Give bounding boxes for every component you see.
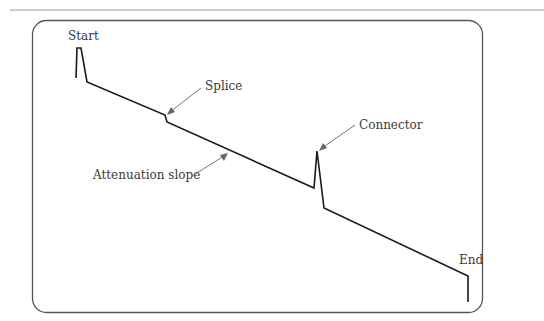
attenuation-label: Attenuation slope — [92, 168, 200, 182]
attenuation-arrow-icon — [192, 153, 228, 176]
otdr-diagram: Start Splice Connector Attenuation slope… — [0, 0, 544, 321]
end-label: End — [459, 253, 483, 267]
connector-arrow-icon — [319, 125, 355, 151]
splice-label: Splice — [205, 79, 242, 93]
frame — [33, 21, 483, 313]
start-label: Start — [68, 29, 99, 43]
connector-label: Connector — [359, 118, 423, 132]
splice-arrow-icon — [167, 88, 201, 115]
